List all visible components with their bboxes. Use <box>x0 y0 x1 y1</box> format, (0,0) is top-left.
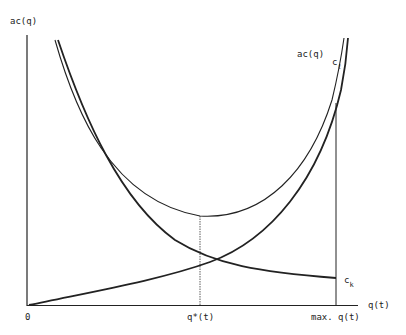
q-star-tick-label: q*(t) <box>187 313 214 322</box>
c-k-curve <box>58 40 336 278</box>
ac-curve-label: ac(q) <box>297 50 324 59</box>
y-axis-label: ac(q) <box>10 17 37 26</box>
c-l-sub: ℓ <box>337 63 341 71</box>
max-q-tick-label: max. q(t) <box>311 313 360 322</box>
x-axis-label: q(t) <box>368 301 390 310</box>
c-l-curve-label: cℓ <box>332 58 342 67</box>
cost-curve-diagram: ac(q) ac(q) cℓ ck q(t) 0 q*(t) max. q(t) <box>0 0 406 335</box>
c-k-curve-label: ck <box>344 276 354 285</box>
c-k-sub: k <box>349 281 353 289</box>
c-l-curve <box>29 38 348 305</box>
ac-curve <box>55 38 344 216</box>
origin-label: 0 <box>25 313 30 322</box>
